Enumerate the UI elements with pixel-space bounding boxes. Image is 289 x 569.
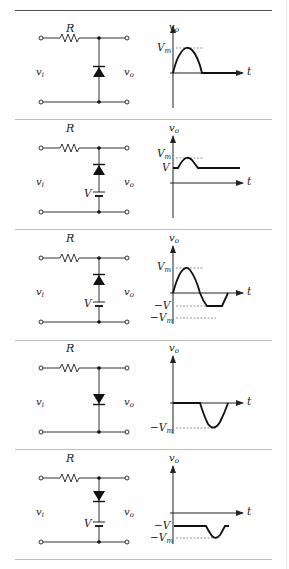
level-label-neg-vm: −Vm	[150, 422, 173, 433]
clipper-row-2: R vi vo V vo t Vm V	[0, 110, 289, 220]
junction-dot	[97, 36, 101, 40]
level-label-neg-v: −V	[154, 300, 170, 311]
level-label-neg-vm: −Vm	[150, 532, 173, 543]
circuit-and-graph	[0, 330, 289, 450]
graph-x-axis-label: t	[247, 506, 251, 517]
resistor-label: R	[66, 233, 74, 244]
junction-dot	[97, 100, 101, 104]
level-label-neg-vm: −Vm	[150, 312, 173, 323]
resistor-label: R	[66, 453, 74, 464]
battery-icon	[93, 192, 105, 196]
graph-y-axis-label: vo	[169, 453, 179, 463]
input-voltage-label: vi	[36, 397, 44, 407]
input-voltage-label: vi	[36, 177, 44, 187]
circuit-and-graph	[0, 440, 289, 560]
graph-y-axis-label: vo	[169, 22, 179, 32]
clipper-row-4: R vi vo vo t −Vm	[0, 330, 289, 440]
battery-icon	[93, 302, 105, 306]
output-voltage-label: vo	[124, 397, 134, 407]
input-voltage-label: vi	[36, 67, 44, 77]
graph-y-axis-label: vo	[169, 233, 179, 243]
output-waveform	[173, 268, 228, 306]
clipper-row-5: R vi vo V vo t −V −Vm	[0, 440, 289, 550]
output-terminal-top	[125, 36, 129, 40]
circuit-and-graph	[0, 110, 289, 230]
output-waveform	[174, 526, 229, 538]
graph-y-axis-label: vo	[169, 343, 179, 353]
output-voltage-label: vo	[124, 67, 134, 77]
input-terminal-top	[39, 36, 43, 40]
level-label-neg-v: −V	[154, 520, 170, 531]
graph-x-axis-label: t	[247, 176, 251, 187]
output-terminal-bottom	[125, 100, 129, 104]
graph-x-axis-label: t	[247, 286, 251, 297]
output-waveform	[173, 403, 228, 428]
level-label-v: V	[162, 162, 170, 173]
diode-icon	[93, 165, 105, 176]
row-separator	[15, 559, 272, 560]
diode-icon	[93, 67, 105, 78]
clipper-row-1: R vi vo vo t Vm	[0, 0, 289, 110]
output-voltage-label: vo	[124, 177, 134, 187]
circuit-and-graph	[0, 220, 289, 340]
output-voltage-label: vo	[124, 287, 134, 297]
level-label-vm: Vm	[157, 148, 171, 159]
graph-x-axis-label: t	[247, 66, 251, 77]
battery-label: V	[84, 518, 92, 529]
level-label-vm: Vm	[157, 261, 171, 272]
clipper-row-3: R vi vo V vo t Vm −V −Vm	[0, 220, 289, 330]
input-terminal-bottom	[39, 100, 43, 104]
output-voltage-label: vo	[124, 507, 134, 517]
resistor-label: R	[66, 123, 74, 134]
input-voltage-label: vi	[36, 507, 44, 517]
input-voltage-label: vi	[36, 287, 44, 297]
diode-icon	[93, 491, 105, 502]
level-label-vm: Vm	[157, 42, 171, 53]
circuit-and-graph	[0, 0, 289, 120]
diode-icon	[93, 394, 105, 405]
graph-y-axis-label: vo	[169, 123, 179, 133]
battery-icon	[93, 522, 105, 526]
graph-x-axis-label: t	[247, 396, 251, 407]
output-waveform	[173, 158, 240, 168]
resistor-label: R	[66, 343, 74, 354]
diode-icon	[93, 275, 105, 286]
battery-label: V	[84, 188, 92, 199]
battery-label: V	[84, 298, 92, 309]
output-waveform	[173, 48, 236, 73]
resistor-label: R	[66, 23, 74, 34]
